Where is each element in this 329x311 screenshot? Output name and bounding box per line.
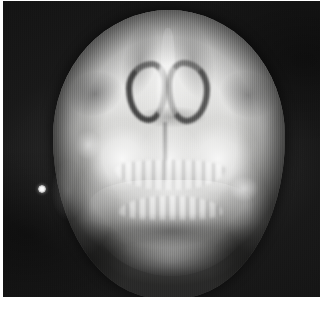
collimation-field xyxy=(53,10,285,297)
radiograph-film xyxy=(3,1,320,297)
radiograph-page xyxy=(0,0,329,311)
marker-adjacent-shadow xyxy=(51,161,85,221)
field-vignette xyxy=(53,10,285,297)
figure-caption xyxy=(4,300,324,309)
radiopaque-side-marker xyxy=(38,185,46,193)
